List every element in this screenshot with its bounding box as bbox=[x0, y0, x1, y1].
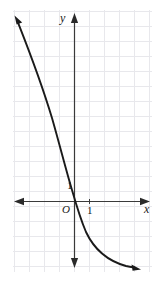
x-axis-left-arrow-icon bbox=[14, 198, 24, 205]
coordinate-plane-svg bbox=[0, 0, 163, 288]
y-tick-label-1: 1 bbox=[67, 180, 73, 191]
curve-end-arrow-icon bbox=[132, 265, 142, 271]
x-axis-label: x bbox=[144, 203, 149, 215]
x-axis bbox=[14, 198, 150, 205]
origin-label: O bbox=[62, 204, 70, 215]
graph-figure: y x O 1 1 bbox=[0, 0, 163, 288]
grid-lines bbox=[13, 10, 152, 272]
exponential-curve bbox=[15, 16, 142, 271]
y-axis bbox=[71, 13, 78, 268]
x-tick-label-1: 1 bbox=[87, 205, 93, 216]
y-axis-label: y bbox=[60, 12, 65, 24]
y-axis-up-arrow-icon bbox=[71, 13, 78, 23]
curve-start-arrow-icon bbox=[15, 16, 23, 25]
